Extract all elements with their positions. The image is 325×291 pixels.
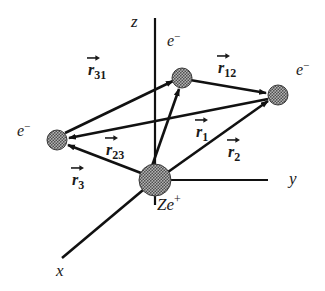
vector-r31-line (65, 81, 173, 133)
vector-r12-line (190, 80, 266, 93)
vector-arrow-icon (227, 136, 240, 143)
axis-x-line (62, 180, 155, 258)
axis-label-y: y (289, 170, 297, 187)
vector-arrow-icon (105, 134, 118, 141)
vector-label-r31: r31 (88, 60, 106, 78)
electron-e2-sphere (268, 85, 288, 105)
vector-arrow-icon (217, 52, 230, 59)
electron-e3-label: e− (17, 123, 30, 139)
electron-e3-charge: − (24, 120, 30, 132)
nucleus-sphere (139, 164, 171, 196)
electron-e2-charge: − (303, 59, 309, 71)
electron-e1-charge: − (174, 30, 180, 42)
vector-label-r23: r23 (106, 140, 124, 158)
nucleus-symbol: Ze (157, 195, 174, 214)
vector-arrow-icon (195, 116, 208, 123)
physics-vector-diagram: z y x e− e− e− Ze+ r1 r2 (0, 0, 325, 291)
axis-label-z: z (131, 13, 138, 30)
vector-r2-subscript: 2 (234, 150, 240, 164)
vector-r12-subscript: 12 (224, 66, 236, 80)
vector-label-r3: r3 (72, 170, 84, 188)
vector-r2-line (168, 101, 268, 172)
vector-r23-subscript: 23 (112, 148, 124, 162)
nucleus-charge: + (174, 192, 181, 206)
nucleus-label: Ze+ (157, 196, 181, 213)
separation-vector-group (65, 80, 268, 138)
vector-r1-subscript: 1 (202, 130, 208, 144)
vector-r3-subscript: 3 (78, 178, 84, 192)
vector-label-r1: r1 (196, 122, 208, 140)
electron-e1-sphere (172, 68, 192, 88)
vector-label-r2: r2 (228, 142, 240, 160)
electron-e3-sphere (47, 130, 67, 150)
vector-arrow-icon (71, 164, 84, 171)
electron-e1-label: e− (167, 33, 180, 49)
diagram-canvas (0, 0, 325, 291)
electron-e2-label: e− (296, 62, 309, 78)
vector-arrow-icon (87, 54, 100, 61)
axis-label-x: x (56, 262, 64, 279)
vector-r31-subscript: 31 (94, 68, 106, 82)
vector-label-r12: r12 (218, 58, 236, 76)
